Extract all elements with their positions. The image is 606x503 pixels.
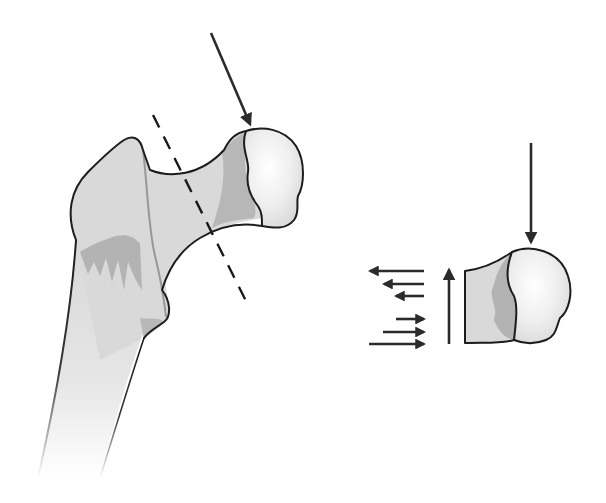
load-arrow <box>211 33 250 124</box>
femoral-neck-section <box>465 249 570 343</box>
lesser-trochanter-shading <box>140 318 164 340</box>
proximal-femur <box>38 129 303 478</box>
tension-arrows <box>370 271 424 296</box>
compression-arrows <box>369 319 424 344</box>
femur-force-diagram <box>0 0 606 503</box>
